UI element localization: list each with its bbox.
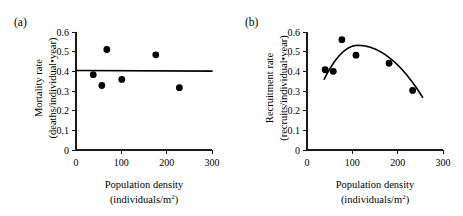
x-axis-title: Population density <box>336 179 415 190</box>
chart-panel-a: (a) 00.10.20.30.40.50.6 0100200300 Popul… <box>0 0 232 216</box>
y-tick-label: 0.1 <box>288 125 301 136</box>
x-axis-title: Population density <box>105 179 184 190</box>
x-axis-tick-labels: 0100200300 <box>305 157 451 168</box>
y-axis-units: (recruits/individual•year) <box>278 35 290 141</box>
panel-label-a: (a) <box>14 16 27 29</box>
data-point <box>90 71 97 78</box>
x-tick-label: 0 <box>305 157 310 168</box>
chart-panel-b: (b) 00.10.20.30.40.50.6 0100200300 Popul… <box>231 0 463 216</box>
x-tick-label: 0 <box>74 157 79 168</box>
data-point <box>339 36 346 43</box>
y-tick-label: 0.5 <box>57 46 70 57</box>
x-tick-label: 300 <box>436 157 451 168</box>
data-points <box>90 46 183 91</box>
data-point <box>322 66 329 73</box>
x-tick-label: 200 <box>159 157 174 168</box>
y-tick-label: 0.2 <box>57 105 70 116</box>
x-axis-tick-labels: 0100200300 <box>74 157 220 168</box>
y-tick-label: 0 <box>64 145 69 156</box>
y-tick-label: 0.5 <box>288 46 301 57</box>
y-axis-title: Recruitment rate <box>264 53 275 124</box>
y-tick-label: 0.1 <box>57 125 70 136</box>
data-point <box>152 51 159 58</box>
fit-curve <box>324 45 422 97</box>
y-axis-units: (deaths/individual•year) <box>47 37 59 139</box>
x-axis-units: (individuals/m2) <box>110 193 179 206</box>
y-tick-label: 0.4 <box>57 66 70 77</box>
panel-a-svg: (a) 00.10.20.30.40.50.6 0100200300 Popul… <box>0 0 232 216</box>
data-point <box>118 76 125 83</box>
y-tick-label: 0.4 <box>288 66 301 77</box>
data-points <box>322 36 416 94</box>
y-tick-label: 0.3 <box>57 86 70 97</box>
panel-label-b: (b) <box>245 16 259 29</box>
y-tick-label: 0.6 <box>57 27 70 38</box>
data-point <box>176 84 183 91</box>
data-point <box>330 68 337 75</box>
x-tick-label: 100 <box>114 157 129 168</box>
x-tick-label: 300 <box>205 157 220 168</box>
y-axis-tick-labels: 00.10.20.30.40.50.6 <box>57 27 70 156</box>
fit-line <box>76 71 212 72</box>
data-point <box>409 87 416 94</box>
x-axis-units: (individuals/m2) <box>341 193 410 206</box>
y-tick-label: 0.3 <box>288 86 301 97</box>
y-tick-label: 0.2 <box>288 105 301 116</box>
y-axis-title: Mortality rate <box>33 59 44 117</box>
data-point <box>386 60 393 67</box>
x-tick-label: 100 <box>345 157 360 168</box>
figure-container: (a) 00.10.20.30.40.50.6 0100200300 Popul… <box>0 0 463 216</box>
y-axis-tick-labels: 00.10.20.30.40.50.6 <box>288 27 301 156</box>
y-tick-label: 0 <box>295 145 300 156</box>
axis-tick-marks <box>72 32 212 154</box>
axis-spines <box>76 32 212 150</box>
data-point <box>353 52 360 59</box>
axis-tick-marks <box>303 32 443 154</box>
x-tick-label: 200 <box>390 157 405 168</box>
data-point <box>98 82 105 89</box>
y-tick-label: 0.6 <box>288 27 301 38</box>
panel-b-svg: (b) 00.10.20.30.40.50.6 0100200300 Popul… <box>231 0 463 216</box>
data-point <box>103 46 110 53</box>
